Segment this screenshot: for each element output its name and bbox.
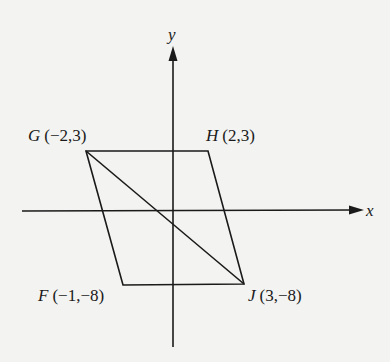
y-axis-arrow-icon: [169, 46, 178, 61]
point-label-F: F(−1,−8): [37, 286, 104, 305]
coordinate-diagram: x y G(−2,3) H(2,3) J(3,−8) F(−1,−8): [0, 0, 390, 362]
point-label-G: G(−2,3): [28, 126, 86, 145]
point-name-F: F: [37, 286, 49, 305]
x-axis-arrow-icon: [349, 206, 364, 215]
svg-text:F(−1,−8): F(−1,−8): [37, 286, 104, 305]
point-label-J: J(3,−8): [248, 286, 302, 305]
point-name-J: J: [248, 286, 257, 305]
point-coords-F: (−1,−8): [52, 286, 104, 305]
y-axis-label: y: [166, 25, 176, 44]
point-coords-H: (2,3): [222, 126, 255, 145]
svg-text:G(−2,3): G(−2,3): [28, 126, 86, 145]
svg-text:H(2,3): H(2,3): [205, 126, 255, 145]
svg-text:J(3,−8): J(3,−8): [248, 286, 302, 305]
point-label-H: H(2,3): [205, 126, 255, 145]
point-coords-G: (−2,3): [44, 126, 86, 145]
x-axis: [22, 206, 364, 215]
x-axis-label: x: [365, 201, 374, 220]
diagonal-GJ: [86, 151, 244, 284]
point-name-H: H: [205, 126, 220, 145]
point-coords-J: (3,−8): [260, 286, 302, 305]
y-axis: [169, 46, 178, 347]
point-name-G: G: [28, 126, 40, 145]
